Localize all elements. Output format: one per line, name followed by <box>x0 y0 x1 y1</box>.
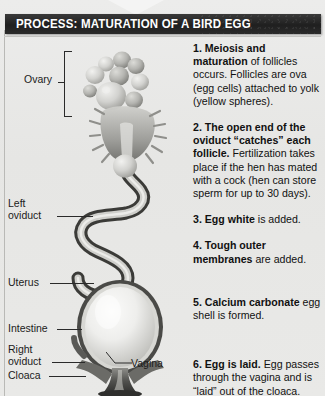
ovary-follicle-cluster <box>83 52 149 111</box>
step-6-number: 6. <box>193 358 202 370</box>
released-follicle <box>113 155 137 178</box>
header-bar: PROCESS: MATURATION OF A BIRD EGG <box>5 14 321 34</box>
step-5-lead: Calcium carbonate <box>205 296 300 308</box>
step-item-4: 4. Tough outer membranes are added. <box>193 239 321 265</box>
step-3-rest: is added. <box>255 213 301 225</box>
diagram-page: PROCESS: MATURATION OF A BIRD EGG <box>0 0 325 396</box>
leader-line-intestine <box>57 329 82 330</box>
bird-reproductive-tract-illustration <box>62 38 188 396</box>
step-item-2: 2. The open end of the oviduct “catches”… <box>193 121 321 200</box>
leader-line-cloaca <box>49 376 86 377</box>
step-item-5: 5. Calcium carbonate egg shell is formed… <box>193 296 321 322</box>
step-4-number: 4. <box>193 239 202 251</box>
label-intestine: Intestine <box>8 323 48 335</box>
leader-line-vagina <box>106 352 132 365</box>
leader-line-left-oviduct <box>57 216 93 217</box>
label-ovary: Ovary <box>24 74 52 86</box>
step-6-lead: Egg is laid. <box>205 358 261 370</box>
coiled-oviduct <box>78 164 144 296</box>
scan-artifact-wedge <box>108 0 164 15</box>
infundibulum-funnel <box>90 106 166 163</box>
label-vagina: Vagina <box>131 358 163 370</box>
step-item-6: 6. Egg is laid. Egg passes through the v… <box>193 358 321 396</box>
frame-border-left <box>4 30 5 396</box>
step-item-3: 3. Egg white is added. <box>193 213 321 226</box>
label-right-oviduct: Right oviduct <box>8 344 41 367</box>
step-5-number: 5. <box>193 296 202 308</box>
ovary-bracket-tip <box>58 82 65 83</box>
step-1-number: 1. <box>193 42 202 54</box>
step-3-lead: Egg white <box>205 213 255 225</box>
page-title: PROCESS: MATURATION OF A BIRD EGG <box>16 17 251 31</box>
step-2-number: 2. <box>193 121 202 133</box>
label-left-oviduct: Left oviduct <box>8 198 41 221</box>
step-4-rest: are added. <box>252 253 306 265</box>
step-item-1: 1. Meiosis and maturation of follicles o… <box>193 42 321 108</box>
step-3-number: 3. <box>193 213 202 225</box>
frame-border-top <box>4 36 321 37</box>
label-uterus: Uterus <box>8 277 39 289</box>
ovary-bracket <box>64 51 72 117</box>
leader-line-uterus <box>50 283 94 284</box>
leader-line-right-oviduct <box>52 362 85 363</box>
process-steps-list: 1. Meiosis and maturation of follicles o… <box>193 42 321 396</box>
label-cloaca: Cloaca <box>8 370 41 382</box>
